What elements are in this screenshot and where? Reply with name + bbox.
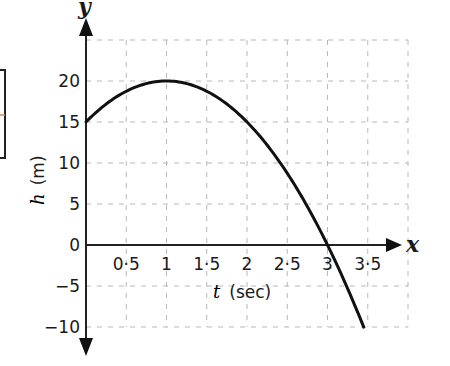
x-axis-name: x xyxy=(405,231,420,257)
x-tick-label: 0·5 xyxy=(113,254,140,274)
y-axis-title-var: h xyxy=(27,193,48,205)
y-axis-down-arrow-icon xyxy=(79,338,93,356)
y-axis-up-arrow-icon xyxy=(79,18,93,36)
y-axis-title: h (m) xyxy=(27,155,48,205)
y-tick-label: 0 xyxy=(69,235,80,255)
y-tick-label: 5 xyxy=(69,194,80,214)
y-tick-label: 10 xyxy=(58,153,80,173)
x-axis-title-unit: (sec) xyxy=(229,282,271,302)
y-tick-label: −10 xyxy=(44,317,80,337)
y-tick-label: −5 xyxy=(55,276,80,296)
x-tick-label: 1·5 xyxy=(193,254,220,274)
x-tick-label: 2·5 xyxy=(274,254,301,274)
x-axis-title-var: t xyxy=(213,281,221,302)
x-tick-label: 3 xyxy=(322,254,333,274)
y-tick-label: 20 xyxy=(58,71,80,91)
x-tick-label: 3·5 xyxy=(354,254,381,274)
chart: 0·511·522·533·5 20151050−5−10 x y t (sec… xyxy=(0,0,450,366)
x-axis-title: t (sec) xyxy=(213,281,271,302)
y-axis-name: y xyxy=(77,0,93,19)
x-tick-label: 1 xyxy=(161,254,172,274)
x-tick-label: 2 xyxy=(242,254,253,274)
cropped-box xyxy=(0,70,5,158)
y-tick-labels: 20151050−5−10 xyxy=(44,71,80,337)
x-axis-arrow-icon xyxy=(386,238,402,252)
y-tick-label: 15 xyxy=(58,112,80,132)
y-axis-title-unit: (m) xyxy=(28,155,48,185)
